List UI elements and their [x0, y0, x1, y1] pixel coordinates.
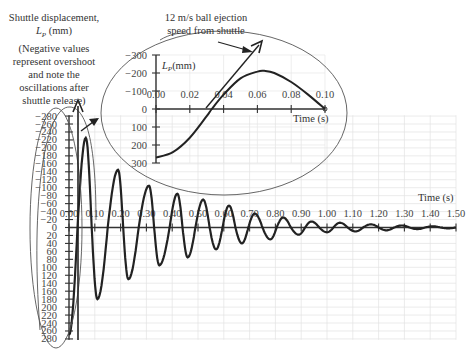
ylabel-symbol: LP (mm): [4, 24, 104, 42]
inset-ylabel: LP(mm): [161, 60, 196, 73]
note-line-2: represent overshoot: [4, 55, 104, 68]
inset-y-tick-label: 200: [131, 140, 147, 151]
inset-y-tick-label: 300: [131, 158, 147, 169]
inset-y-tick-label: 100: [131, 122, 147, 133]
x-tick-label: 1.10: [344, 208, 362, 219]
ylabel-title: Shuttle displacement,: [4, 11, 104, 24]
inset-x-tick-label: 0.10: [316, 89, 334, 100]
ylabel-block: Shuttle displacement, LP (mm) (Negative …: [4, 11, 104, 107]
inset-y-tick-label: −100: [125, 86, 147, 97]
x-tick-label: 1.30: [395, 208, 413, 219]
inset-y-tick-label: −200: [125, 68, 147, 79]
note-line-3: and note the: [4, 68, 104, 81]
main-axes: −280−260−240−220−200−180−160−140−120−100…: [35, 111, 465, 345]
note-line-1: (Negative values: [4, 42, 104, 55]
inset-xlabel: Time (s): [293, 113, 329, 125]
inset-axes: −300−200−10001002003000.000.020.040.060.…: [125, 50, 334, 169]
inset-y-tick-label: 0: [142, 104, 147, 115]
x-tick-label: 0.90: [292, 208, 310, 219]
inset-x-tick-label: 0.00: [147, 89, 165, 100]
main-displacement-curve: [69, 138, 456, 335]
x-tick-label: 0.10: [86, 208, 104, 219]
x-tick-label: 1.20: [369, 208, 387, 219]
inset-x-tick-label: 0.02: [181, 89, 199, 100]
note-line-5: shuttle release): [4, 94, 104, 107]
main-xlabel: Time (s): [418, 192, 454, 204]
annotation-line-2: speed from shuttle: [140, 24, 272, 37]
x-tick-label: 1.50: [447, 208, 465, 219]
note-line-4: oscillations after: [4, 81, 104, 94]
x-tick-label: 1.40: [421, 208, 439, 219]
inset-link-arrow: [81, 118, 99, 131]
x-tick-label: 0.00: [60, 208, 78, 219]
x-tick-label: 1.00: [318, 208, 336, 219]
ejection-annotation: 12 m/s ball ejection speed from shuttle: [140, 11, 272, 37]
x-tick-label: 0.20: [111, 208, 129, 219]
inset-x-tick-label: 0.06: [248, 89, 266, 100]
y-tick-label: 280: [41, 333, 57, 344]
annotation-line-1: 12 m/s ball ejection: [140, 11, 272, 24]
inset-x-tick-label: 0.08: [282, 89, 300, 100]
